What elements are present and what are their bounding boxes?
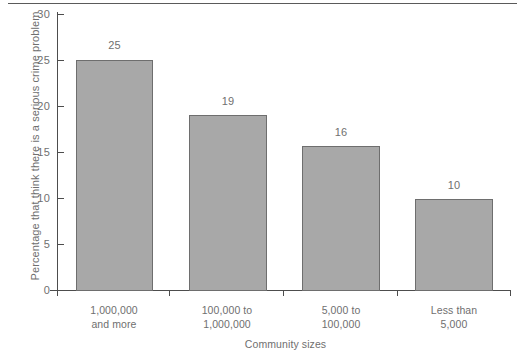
- y-tick-20: [58, 106, 64, 107]
- bar-value-3: 16: [302, 126, 380, 138]
- x-tick-3: [397, 291, 398, 296]
- x-category-label-4-line1: Less than: [398, 303, 510, 317]
- x-category-label-3-line2: 100,000: [285, 317, 397, 331]
- bar-100000-to-1000000: [189, 115, 267, 291]
- bar-1000000-and-more: [76, 60, 153, 291]
- x-category-label-2-line1: 100,000 to: [171, 303, 283, 317]
- y-tick-30: [58, 14, 64, 15]
- bar-less-than-5000: [415, 199, 493, 291]
- x-tick-1: [169, 291, 170, 296]
- x-tick-end: [510, 291, 511, 296]
- y-tick-10: [58, 198, 64, 199]
- x-category-label-4-line2: 5,000: [398, 317, 510, 331]
- y-tick-25: [58, 60, 64, 61]
- x-category-label-2-line2: 1,000,000: [171, 317, 283, 331]
- x-category-label-1: 1,000,000 and more: [58, 303, 170, 331]
- figure-top-rule: [8, 3, 517, 4]
- x-tick-2: [283, 291, 284, 296]
- bar-value-1: 25: [76, 39, 153, 51]
- bar-5000-to-100000: [302, 146, 380, 291]
- x-category-label-3: 5,000 to 100,000: [285, 303, 397, 331]
- y-axis-title: Percentage that think there is a serious…: [29, 1, 41, 291]
- x-axis-title: Community sizes: [245, 338, 326, 350]
- bar-value-2: 19: [189, 95, 267, 107]
- x-category-label-2: 100,000 to 1,000,000: [171, 303, 283, 331]
- bar-chart-figure: 30 25 20 15 10 5 0 Percentage that think…: [0, 0, 517, 356]
- bar-value-4: 10: [415, 179, 493, 191]
- x-category-label-1-line1: 1,000,000: [58, 303, 170, 317]
- y-tick-15: [58, 152, 64, 153]
- x-category-label-1-line2: and more: [58, 317, 170, 331]
- x-axis-title-wrap: Community sizes: [0, 338, 517, 350]
- x-tick-start: [57, 291, 58, 296]
- x-category-label-4: Less than 5,000: [398, 303, 510, 331]
- y-tick-5: [58, 244, 64, 245]
- x-category-label-3-line1: 5,000 to: [285, 303, 397, 317]
